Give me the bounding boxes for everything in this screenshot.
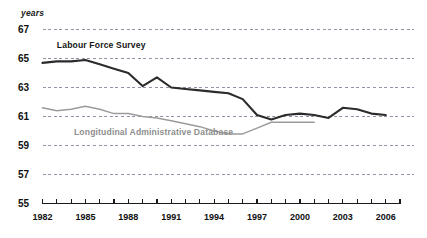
y-tick-label: 57 bbox=[18, 170, 38, 180]
line-chart: years 67656361595755 1982198519881991199… bbox=[0, 0, 427, 238]
y-tick-label: 63 bbox=[18, 83, 38, 93]
x-tick-label: 2006 bbox=[369, 213, 403, 222]
series-label-labour-force-survey: Labour Force Survey bbox=[57, 40, 146, 50]
chart-plot-area bbox=[0, 0, 427, 238]
y-tick-label: 55 bbox=[18, 199, 38, 209]
series-label-longitudinal-administrative-database: Longitudinal Administrative Database bbox=[74, 127, 233, 137]
x-tick-label: 2000 bbox=[283, 213, 317, 222]
x-axis bbox=[42, 199, 402, 204]
series-lines bbox=[43, 60, 386, 134]
series-line bbox=[43, 60, 386, 119]
x-tick-label: 1994 bbox=[197, 213, 231, 222]
x-tick-label: 1988 bbox=[111, 213, 145, 222]
x-tick-label: 1985 bbox=[68, 213, 102, 222]
x-tick-label: 1997 bbox=[240, 213, 274, 222]
y-tick-label: 61 bbox=[18, 112, 38, 122]
x-tick-label: 1991 bbox=[154, 213, 188, 222]
y-tick-label: 59 bbox=[18, 141, 38, 151]
x-tick-label: 1982 bbox=[26, 213, 60, 222]
y-tick-label: 65 bbox=[18, 54, 38, 64]
x-tick-label: 2003 bbox=[326, 213, 360, 222]
y-tick-label: 67 bbox=[18, 25, 38, 35]
gridlines bbox=[43, 30, 415, 175]
